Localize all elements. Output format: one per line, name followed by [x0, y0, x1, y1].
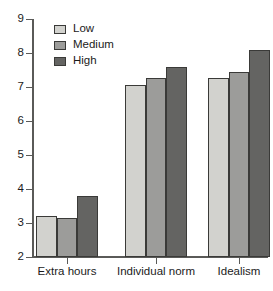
y-tick-mark	[26, 257, 33, 258]
y-tick-label: 9	[0, 13, 24, 25]
y-tick-label-wrap: 3	[0, 217, 24, 229]
x-tick-mark	[156, 258, 157, 264]
bar-extra-hours-high	[77, 196, 98, 257]
legend-swatch-low	[54, 25, 66, 34]
y-tick-label-wrap: 7	[0, 81, 24, 93]
y-tick-mark	[26, 121, 33, 122]
y-tick-label-wrap: 8	[0, 47, 24, 59]
y-tick-label: 2	[0, 251, 24, 263]
y-tick-label-wrap: 5	[0, 149, 24, 161]
legend-swatch-high	[54, 57, 66, 66]
legend-item-medium: Medium	[54, 38, 114, 52]
y-tick-label: 4	[0, 183, 24, 195]
y-tick-mark	[26, 189, 33, 190]
y-tick-label: 7	[0, 81, 24, 93]
y-tick-label-wrap: 6	[0, 115, 24, 127]
bar-individual-norm-high	[166, 67, 187, 257]
legend-label-high: High	[73, 55, 97, 67]
bar-chart: 23456789 Extra hoursIndividual normIdeal…	[0, 0, 273, 291]
bar-individual-norm-medium	[146, 78, 167, 257]
bar-extra-hours-medium	[57, 218, 78, 257]
y-tick-label: 3	[0, 217, 24, 229]
legend: LowMediumHigh	[54, 22, 114, 70]
legend-label-medium: Medium	[73, 39, 114, 51]
x-tick-mark	[67, 258, 68, 264]
y-tick-label: 5	[0, 149, 24, 161]
y-tick-label-wrap: 4	[0, 183, 24, 195]
bar-extra-hours-low	[36, 216, 57, 257]
y-tick-label-wrap: 9	[0, 13, 24, 25]
y-tick-label-wrap: 2	[0, 251, 24, 263]
bar-idealism-high	[249, 50, 270, 257]
y-tick-mark	[26, 155, 33, 156]
y-tick-mark	[26, 53, 33, 54]
x-tick-mark	[239, 258, 240, 264]
y-tick-mark	[26, 223, 33, 224]
bar-idealism-medium	[229, 72, 250, 257]
legend-swatch-medium	[54, 41, 66, 50]
legend-item-low: Low	[54, 22, 114, 36]
bar-idealism-low	[208, 78, 229, 257]
y-tick-label: 6	[0, 115, 24, 127]
y-tick-mark	[26, 87, 33, 88]
y-tick-mark	[26, 19, 33, 20]
y-tick-label: 8	[0, 47, 24, 59]
legend-label-low: Low	[73, 23, 94, 35]
bar-individual-norm-low	[125, 85, 146, 257]
legend-item-high: High	[54, 54, 114, 68]
x-axis-label-idealism: Idealism	[179, 266, 273, 278]
